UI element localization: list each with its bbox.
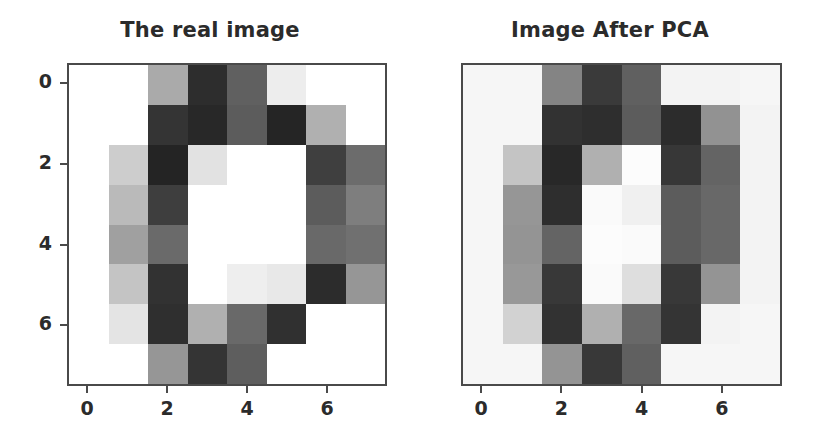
heatmap-cell-pca-r0-c1 bbox=[503, 65, 543, 105]
xtick-label-pca-6: 6 bbox=[707, 397, 737, 419]
heatmap-cell-pca-r7-c4 bbox=[622, 344, 662, 384]
heatmap-cell-pca-r5-c4 bbox=[622, 264, 662, 304]
heatmap-cell-pca-r3-c1 bbox=[503, 185, 543, 225]
heatmap-cell-real-r7-c2 bbox=[148, 344, 188, 384]
heatmap-cell-real-r6-c3 bbox=[188, 304, 228, 344]
heatmap-cell-real-r1-c0 bbox=[69, 105, 109, 145]
ytick-label-real-6: 6 bbox=[22, 312, 52, 334]
heatmap-cell-real-r3-c7 bbox=[346, 185, 386, 225]
heatmap-cell-real-r4-c0 bbox=[69, 225, 109, 265]
heatmap-cell-pca-r5-c1 bbox=[503, 264, 543, 304]
heatmap-cell-real-r4-c7 bbox=[346, 225, 386, 265]
heatmap-cell-pca-r7-c7 bbox=[740, 344, 780, 384]
heatmap-cell-real-r0-c4 bbox=[227, 65, 267, 105]
xtick-mark-pca-6 bbox=[721, 386, 723, 393]
heatmap-cell-real-r5-c4 bbox=[227, 264, 267, 304]
heatmap-cell-real-r1-c6 bbox=[306, 105, 346, 145]
heatmap-cell-pca-r4-c0 bbox=[463, 225, 503, 265]
heatmap-cell-pca-r4-c5 bbox=[661, 225, 701, 265]
heatmap-cell-real-r5-c3 bbox=[188, 264, 228, 304]
heatmap-cell-real-r3-c1 bbox=[109, 185, 149, 225]
heatmap-cell-real-r4-c1 bbox=[109, 225, 149, 265]
heatmap-cell-pca-r7-c6 bbox=[701, 344, 741, 384]
ytick-mark-real-0 bbox=[60, 82, 67, 84]
heatmap-cell-real-r0-c1 bbox=[109, 65, 149, 105]
heatmap-cell-pca-r0-c3 bbox=[582, 65, 622, 105]
heatmap-cell-real-r7-c5 bbox=[267, 344, 307, 384]
heatmap-cell-pca-r3-c2 bbox=[542, 185, 582, 225]
heatmap-cell-real-r3-c4 bbox=[227, 185, 267, 225]
heatmap-cell-pca-r4-c6 bbox=[701, 225, 741, 265]
heatmap-cell-pca-r3-c0 bbox=[463, 185, 503, 225]
heatmap-cell-real-r3-c0 bbox=[69, 185, 109, 225]
heatmap-cell-real-r4-c6 bbox=[306, 225, 346, 265]
heatmap-cell-real-r7-c0 bbox=[69, 344, 109, 384]
heatmap-cell-real-r5-c2 bbox=[148, 264, 188, 304]
heatmap-cell-real-r2-c6 bbox=[306, 145, 346, 185]
heatmap-cell-pca-r4-c2 bbox=[542, 225, 582, 265]
heatmap-cell-real-r2-c1 bbox=[109, 145, 149, 185]
ytick-label-real-4: 4 bbox=[22, 232, 52, 254]
xtick-mark-real-6 bbox=[326, 386, 328, 393]
heatmap-cell-pca-r4-c1 bbox=[503, 225, 543, 265]
heatmap-cell-pca-r3-c3 bbox=[582, 185, 622, 225]
heatmap-cell-pca-r6-c6 bbox=[701, 304, 741, 344]
heatmap-cell-real-r0-c6 bbox=[306, 65, 346, 105]
heatmap-grid-real-image bbox=[69, 65, 385, 384]
heatmap-cell-pca-r5-c2 bbox=[542, 264, 582, 304]
heatmap-cell-pca-r7-c1 bbox=[503, 344, 543, 384]
heatmap-cell-real-r2-c5 bbox=[267, 145, 307, 185]
heatmap-cell-real-r0-c7 bbox=[346, 65, 386, 105]
heatmap-cell-real-r7-c3 bbox=[188, 344, 228, 384]
heatmap-cell-real-r1-c7 bbox=[346, 105, 386, 145]
heatmap-cell-real-r3-c5 bbox=[267, 185, 307, 225]
xtick-mark-pca-0 bbox=[480, 386, 482, 393]
heatmap-cell-pca-r0-c5 bbox=[661, 65, 701, 105]
heatmap-cell-real-r7-c7 bbox=[346, 344, 386, 384]
heatmap-cell-real-r7-c4 bbox=[227, 344, 267, 384]
heatmap-cell-pca-r2-c4 bbox=[622, 145, 662, 185]
ytick-mark-real-2 bbox=[60, 163, 67, 165]
xtick-label-real-6: 6 bbox=[312, 397, 342, 419]
heatmap-cell-pca-r0-c0 bbox=[463, 65, 503, 105]
heatmap-cell-real-r6-c5 bbox=[267, 304, 307, 344]
heatmap-cell-real-r5-c5 bbox=[267, 264, 307, 304]
heatmap-cell-pca-r2-c1 bbox=[503, 145, 543, 185]
ytick-mark-real-4 bbox=[60, 244, 67, 246]
heatmap-cell-real-r6-c7 bbox=[346, 304, 386, 344]
xtick-mark-real-0 bbox=[86, 386, 88, 393]
ytick-label-real-0: 0 bbox=[22, 70, 52, 92]
xtick-label-pca-2: 2 bbox=[546, 397, 576, 419]
heatmap-cell-real-r5-c0 bbox=[69, 264, 109, 304]
xtick-mark-pca-4 bbox=[641, 386, 643, 393]
xtick-label-real-2: 2 bbox=[152, 397, 182, 419]
heatmap-cell-real-r4-c4 bbox=[227, 225, 267, 265]
heatmap-cell-pca-r7-c2 bbox=[542, 344, 582, 384]
heatmap-cell-pca-r5-c0 bbox=[463, 264, 503, 304]
heatmap-cell-pca-r1-c6 bbox=[701, 105, 741, 145]
heatmap-cell-pca-r3-c4 bbox=[622, 185, 662, 225]
heatmap-cell-real-r4-c3 bbox=[188, 225, 228, 265]
heatmap-cell-real-r6-c6 bbox=[306, 304, 346, 344]
ytick-label-real-2: 2 bbox=[22, 151, 52, 173]
xtick-label-pca-0: 0 bbox=[466, 397, 496, 419]
xtick-label-real-0: 0 bbox=[72, 397, 102, 419]
heatmap-cell-real-r1-c4 bbox=[227, 105, 267, 145]
heatmap-cell-pca-r6-c3 bbox=[582, 304, 622, 344]
panel-pca-image: Image After PCA 0246 bbox=[400, 0, 814, 444]
heatmap-cell-real-r1-c2 bbox=[148, 105, 188, 145]
heatmap-cell-real-r3-c3 bbox=[188, 185, 228, 225]
heatmap-cell-real-r0-c2 bbox=[148, 65, 188, 105]
heatmap-cell-real-r3-c6 bbox=[306, 185, 346, 225]
ytick-mark-real-6 bbox=[60, 324, 67, 326]
panel-title-pca-image: Image After PCA bbox=[420, 18, 800, 42]
heatmap-cell-real-r6-c0 bbox=[69, 304, 109, 344]
xtick-mark-real-4 bbox=[246, 386, 248, 393]
heatmap-cell-pca-r0-c6 bbox=[701, 65, 741, 105]
heatmap-cell-real-r1-c5 bbox=[267, 105, 307, 145]
xtick-label-pca-4: 4 bbox=[627, 397, 657, 419]
heatmap-cell-pca-r1-c2 bbox=[542, 105, 582, 145]
heatmap-cell-real-r0-c0 bbox=[69, 65, 109, 105]
figure-canvas: The real image 02460246 Image After PCA … bbox=[0, 0, 814, 444]
heatmap-cell-real-r5-c6 bbox=[306, 264, 346, 304]
